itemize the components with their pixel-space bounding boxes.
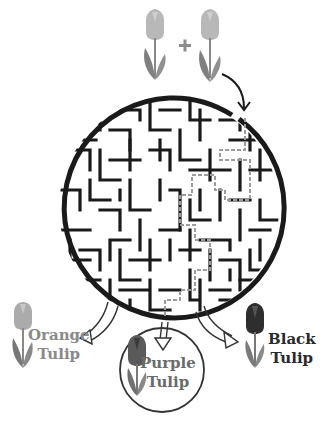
exit-label-line1: Purple bbox=[140, 354, 196, 373]
tulip-icon-right bbox=[199, 9, 221, 82]
exit-label-black-tulip: Black Tulip bbox=[268, 330, 316, 368]
exit-label-line1: Black bbox=[268, 330, 316, 349]
tulip-icon-black bbox=[245, 303, 264, 368]
exit-label-orange-tulip: Orange Tulip bbox=[28, 326, 90, 364]
tulip-icon-left bbox=[144, 9, 166, 80]
exit-label-line1: Orange bbox=[28, 326, 90, 345]
solution-path bbox=[165, 118, 250, 318]
entrance-arrow bbox=[222, 74, 250, 110]
exit-label-line2: Tulip bbox=[28, 345, 90, 364]
maze-boundary bbox=[64, 98, 284, 318]
plus-sign bbox=[179, 40, 191, 52]
exit-label-line2: Tulip bbox=[268, 349, 316, 368]
exit-label-line2: Tulip bbox=[140, 373, 196, 392]
exit-label-purple-tulip: Purple Tulip bbox=[140, 354, 196, 392]
